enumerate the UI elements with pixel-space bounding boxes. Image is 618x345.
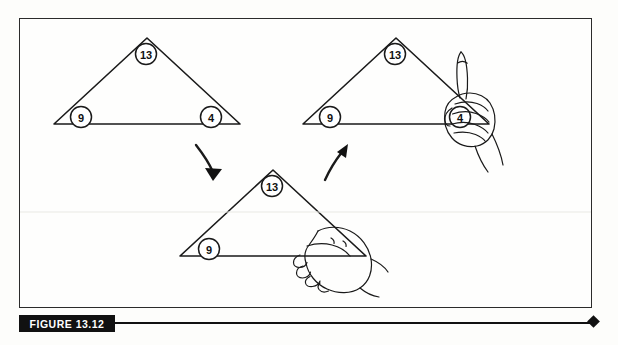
wrist-lower-edge-panel3 [360, 288, 379, 297]
arrow-step-one-curve [196, 145, 213, 172]
hand-left-edge [305, 231, 318, 263]
thumb-over-paper [307, 244, 350, 256]
knuckle-detail-2 [343, 241, 346, 247]
hand-back-outline [306, 227, 372, 292]
angle-label-4-panel1: 4 [208, 112, 215, 124]
hand-illustration-panel3 [294, 227, 389, 297]
wrist-left-edge [475, 146, 488, 172]
angle-label-13-panel1: 13 [140, 49, 152, 61]
knuckle-detail-1 [331, 238, 334, 244]
figure-caption-label: FIGURE 13.12 [19, 315, 115, 332]
panel-top-right: 13 9 4 [303, 38, 503, 172]
wrist-right-edge [492, 134, 503, 165]
panel-bottom-center: 13 9 [180, 170, 388, 297]
figure-root: 13 9 4 13 9 4 [0, 0, 618, 345]
finger-crease-4 [454, 132, 486, 141]
angle-label-13-panel2: 13 [389, 49, 401, 61]
angle-label-4-panel2: 4 [457, 112, 464, 124]
caption-rule [115, 322, 592, 324]
figure-artwork: 13 9 4 13 9 4 [0, 0, 618, 345]
angle-label-9-panel3: 9 [206, 244, 212, 256]
angle-label-9-panel1: 9 [78, 112, 84, 124]
angle-label-9-panel2: 9 [327, 112, 333, 124]
panel-top-left: 13 9 4 [54, 38, 240, 128]
index-finger-left-edge [457, 52, 461, 98]
arrow-step-one [196, 145, 222, 181]
wrist-upper-edge-panel3 [371, 259, 388, 272]
index-finger-right-edge [461, 52, 468, 99]
angle-label-13-panel3: 13 [266, 181, 278, 193]
arrow-step-two-curve [325, 152, 342, 180]
arrow-step-one-head [205, 168, 222, 181]
arrow-step-two [325, 144, 348, 180]
